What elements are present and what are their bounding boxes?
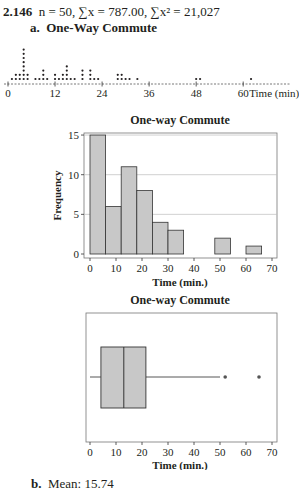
dotplot-tick-label: 24 xyxy=(97,87,109,99)
dotplot-dot xyxy=(23,78,25,80)
histogram-xtick-label: 60 xyxy=(241,262,253,274)
dotplot-dot xyxy=(125,78,127,80)
dotplot-dot xyxy=(62,78,64,80)
histogram-xtick-label: 0 xyxy=(87,262,93,274)
dotplot-dot xyxy=(42,70,44,72)
boxplot: One-way Commute010203040506070Time (min.… xyxy=(0,290,299,470)
boxplot-xtick-label: 30 xyxy=(163,446,175,458)
dotplot-tick-label: 36 xyxy=(144,87,156,99)
dotplot-dot xyxy=(11,78,13,80)
dotplot-xlabel: Time (min) xyxy=(249,87,299,100)
dotplot-dot xyxy=(23,53,25,55)
histogram-ytick-label: 5 xyxy=(74,208,80,220)
histogram-xtick-label: 30 xyxy=(163,262,175,274)
dotplot-dot xyxy=(38,78,40,80)
dotplot-dot xyxy=(23,74,25,76)
dotplot-dot xyxy=(15,74,17,76)
dotplot-dot xyxy=(58,78,60,80)
histogram-bar xyxy=(246,246,262,254)
dotplot-dot xyxy=(27,74,29,76)
histogram-title: One-way Commute xyxy=(130,113,230,127)
dotplot-dot xyxy=(89,78,91,80)
part-b-answer: b. Mean: 15.74 xyxy=(31,476,114,492)
dotplot-dot xyxy=(70,78,72,80)
part-b-text: Mean: 15.74 xyxy=(48,476,114,491)
boxplot-xtick-label: 40 xyxy=(189,446,201,458)
dotplot-dot xyxy=(27,78,29,80)
histogram-bar xyxy=(152,222,168,254)
histogram-ytick-label: 0 xyxy=(74,248,80,260)
dotplot-dot xyxy=(23,61,25,63)
dotplot: 01224364860Time (min) xyxy=(0,0,299,100)
dotplot-dot xyxy=(136,78,138,80)
histogram-bar xyxy=(106,206,122,254)
histogram-xtick-label: 70 xyxy=(267,262,279,274)
dotplot-dot xyxy=(66,70,68,72)
histogram-xtick-label: 20 xyxy=(137,262,149,274)
boxplot-xtick-label: 60 xyxy=(241,446,253,458)
dotplot-dot xyxy=(81,74,83,76)
boxplot-xtick-label: 0 xyxy=(87,446,93,458)
dotplot-dot xyxy=(54,74,56,76)
histogram-bar xyxy=(90,135,106,254)
boxplot-xtick-label: 20 xyxy=(137,446,149,458)
boxplot-xlabel: Time (min.) xyxy=(152,459,208,470)
boxplot-title: One-way Commute xyxy=(130,293,230,307)
boxplot-xtick-label: 70 xyxy=(267,446,279,458)
dotplot-dot xyxy=(89,70,91,72)
dotplot-dot xyxy=(66,74,68,76)
histogram-xtick-label: 10 xyxy=(111,262,123,274)
dotplot-dot xyxy=(62,74,64,76)
dotplot-dot xyxy=(23,65,25,67)
dotplot-dot xyxy=(117,78,119,80)
dotplot-dot xyxy=(34,78,36,80)
dotplot-dot xyxy=(66,65,68,67)
boxplot-xtick-label: 10 xyxy=(111,446,123,458)
dotplot-dot xyxy=(23,70,25,72)
histogram-bar xyxy=(215,238,231,254)
dotplot-dot xyxy=(15,78,17,80)
dotplot-dot xyxy=(195,78,197,80)
dotplot-dot xyxy=(23,57,25,59)
dotplot-dot xyxy=(121,78,123,80)
dotplot-dot xyxy=(42,78,44,80)
histogram-ytick-label: 10 xyxy=(68,169,80,181)
dotplot-dot xyxy=(66,78,68,80)
dotplot-dot xyxy=(81,70,83,72)
dotplot-dot xyxy=(74,78,76,80)
dotplot-dot xyxy=(93,78,95,80)
dotplot-tick-label: 0 xyxy=(5,87,11,99)
dotplot-dot xyxy=(89,74,91,76)
boxplot-outlier xyxy=(257,375,261,379)
dotplot-dot xyxy=(42,74,44,76)
dotplot-dot xyxy=(199,78,201,80)
dotplot-dot xyxy=(128,78,130,80)
dotplot-dot xyxy=(121,74,123,76)
part-b-label: b. xyxy=(31,476,41,491)
dotplot-dot xyxy=(23,49,25,51)
histogram: One-way Commute051015010203040506070Time… xyxy=(0,100,299,290)
histogram-bar xyxy=(168,230,184,254)
histogram-xlabel: Time (min.) xyxy=(152,276,208,289)
dotplot-dot xyxy=(19,78,21,80)
dotplot-dot xyxy=(97,78,99,80)
histogram-bar xyxy=(137,191,153,254)
histogram-ylabel: Frequency xyxy=(51,170,63,220)
dotplot-tick-label: 48 xyxy=(191,87,203,99)
dotplot-dot xyxy=(250,78,252,80)
dotplot-dot xyxy=(19,74,21,76)
boxplot-xtick-label: 50 xyxy=(215,446,227,458)
dotplot-dot xyxy=(54,78,56,80)
histogram-xtick-label: 40 xyxy=(189,262,201,274)
dotplot-dot xyxy=(117,74,119,76)
histogram-bar xyxy=(121,167,137,254)
dotplot-dot xyxy=(81,78,83,80)
dotplot-tick-label: 12 xyxy=(50,87,61,99)
dotplot-dot xyxy=(46,78,48,80)
histogram-ytick-label: 15 xyxy=(68,129,80,141)
dotplot-tick-label: 60 xyxy=(238,87,250,99)
boxplot-outlier xyxy=(223,375,227,379)
histogram-xtick-label: 50 xyxy=(215,262,227,274)
